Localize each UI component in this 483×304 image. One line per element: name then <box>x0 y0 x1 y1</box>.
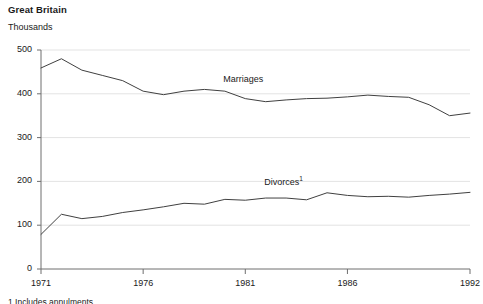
xtick-label-1976: 1976 <box>123 278 163 288</box>
series-label-text: Divorces <box>264 177 299 187</box>
chart-figure: Great Britain Thousands 0100200300400500… <box>0 0 483 304</box>
series-line-divorces <box>41 192 470 234</box>
series-label-text: Marriages <box>223 74 263 84</box>
xtick-label-1986: 1986 <box>327 278 367 288</box>
xtick-label-1992: 1992 <box>450 278 483 288</box>
ytick-label-200: 200 <box>2 175 32 185</box>
ytick-label-100: 100 <box>2 219 32 229</box>
footnote-marker: 1 <box>299 175 303 182</box>
series-line-marriages <box>41 59 470 116</box>
xtick-label-1981: 1981 <box>225 278 265 288</box>
series-label-divorces: Divorces1 <box>264 177 303 187</box>
ytick-label-300: 300 <box>2 132 32 142</box>
series-lines <box>41 59 470 235</box>
xtick-label-1971: 1971 <box>21 278 61 288</box>
series-label-marriages: Marriages <box>223 74 263 84</box>
ytick-label-500: 500 <box>2 44 32 54</box>
chart-footnote: 1 Includes annulments. <box>8 297 95 304</box>
ytick-label-0: 0 <box>2 263 32 273</box>
plot-area <box>0 0 483 304</box>
ytick-label-400: 400 <box>2 88 32 98</box>
